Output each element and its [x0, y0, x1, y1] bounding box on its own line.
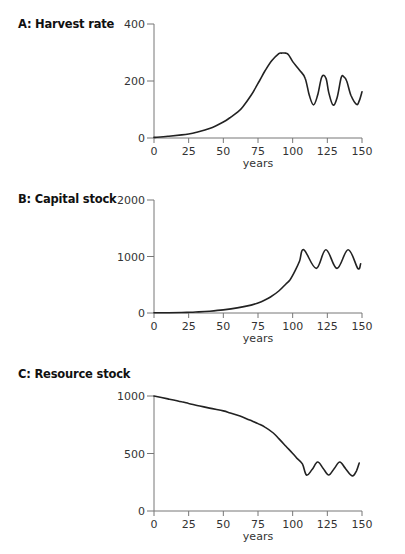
- x-axis: 0255075100125150: [151, 511, 373, 531]
- x-axis-label: years: [243, 530, 274, 543]
- x-tick-label: 50: [216, 518, 230, 531]
- y-axis: 05001000: [117, 390, 154, 518]
- y-tick-label: 0: [138, 505, 145, 518]
- x-tick-label: 25: [182, 518, 196, 531]
- y-tick-label: 500: [124, 448, 145, 461]
- chart-resource-stock: 05001000 0255075100125150 years: [0, 0, 405, 554]
- x-tick-label: 150: [352, 518, 373, 531]
- x-tick-label: 125: [317, 518, 338, 531]
- x-tick-label: 100: [282, 518, 303, 531]
- resource-stock-line: [154, 396, 359, 476]
- y-tick-label: 1000: [117, 390, 145, 403]
- x-tick-label: 0: [151, 518, 158, 531]
